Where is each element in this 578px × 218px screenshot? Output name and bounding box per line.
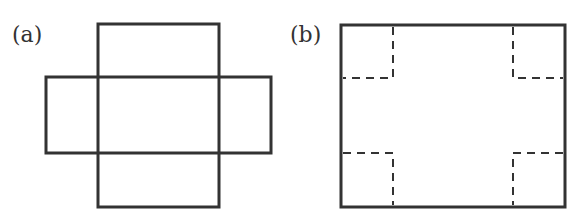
figure-a-horizontal-rect [46,77,271,153]
corner-cut-bottom-right [513,153,563,205]
figure-a-cross-net [46,24,271,207]
corner-cut-top-left [343,27,393,78]
figure-a-vertical-rect [98,24,219,207]
corner-cut-bottom-left [343,153,393,205]
diagram-canvas [0,0,578,218]
figure-b-outer-rect [341,25,565,207]
figure-b-dashed-corners [343,27,563,205]
figure-b-rect-with-cutouts [341,25,565,207]
corner-cut-top-right [513,27,563,78]
